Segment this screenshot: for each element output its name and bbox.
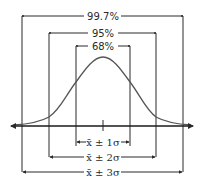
bell-curve — [14, 57, 191, 125]
label-68-percent: 68% — [92, 41, 114, 52]
label-mean-plus-minus-2sigma: x̄ ± 2σ — [86, 152, 120, 163]
label-99-7-percent: 99.7% — [87, 11, 119, 22]
label-95-percent: 95% — [92, 28, 114, 39]
boundary-lines — [22, 16, 183, 172]
label-mean-plus-minus-1sigma: x̄ ± 1σ — [86, 137, 120, 148]
label-mean-plus-minus-3sigma: x̄ ± 3σ — [86, 167, 120, 178]
normal-distribution-diagram: 99.7% 95% 68% x̄ ± 1σ x̄ ± 2σ x̄ ± 3σ — [0, 0, 199, 187]
